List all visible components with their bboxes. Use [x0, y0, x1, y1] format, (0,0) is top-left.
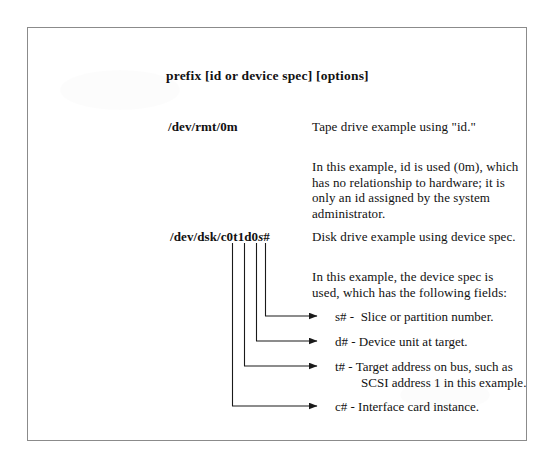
tape-device-spec: /dev/rmt/0m [168, 119, 238, 135]
disk-spec-prefix: /dev/dsk/c0t1d0 [170, 229, 258, 244]
field-label-device-unit: d# - Device unit at target. [335, 334, 468, 350]
field-label-interface-card: c# - Interface card instance. [335, 399, 479, 415]
disk-explanation: In this example, the device spec is used… [312, 269, 507, 300]
tape-explanation: In this example, id is used (0m), which … [312, 159, 518, 221]
disk-device-spec: /dev/dsk/c0t1d0s# [170, 229, 270, 245]
field-label-slice: s# - Slice or partition number. [335, 309, 494, 325]
tape-caption: Tape drive example using "id." [312, 119, 476, 135]
disk-spec-suffix: # [263, 229, 270, 244]
field-label-target-address: t# - Target address on bus, such as SCSI… [335, 359, 526, 390]
page-title: prefix [id or device spec] [options] [166, 68, 369, 84]
disk-caption: Disk drive example using device spec. [312, 229, 516, 245]
scanned-page: prefix [id or device spec] [options] /de… [0, 0, 553, 470]
